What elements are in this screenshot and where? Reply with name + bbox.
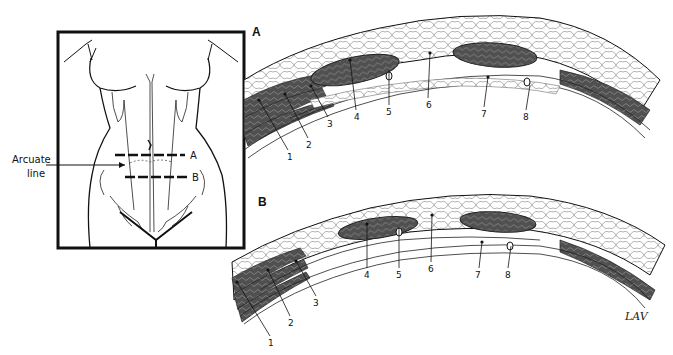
torso-inset: A B xyxy=(46,32,244,248)
cross-section-b: B 1 2 3 4 5 6 7 8 xyxy=(232,195,665,349)
section-b-label: B xyxy=(192,172,199,183)
callout-a-6: 6 xyxy=(426,100,432,110)
callout-a-2: 2 xyxy=(306,140,312,150)
callout-a-4: 4 xyxy=(354,112,360,122)
panel-a-letter: A xyxy=(252,25,261,39)
epigastric-vessel-right-b xyxy=(507,242,513,250)
callout-a-7: 7 xyxy=(481,109,487,119)
callout-a-5: 5 xyxy=(386,107,392,117)
arcuate-line-label-2: line xyxy=(27,168,45,179)
arcuate-line-label-1: Arcuate xyxy=(12,154,51,165)
callout-b-7: 7 xyxy=(475,270,481,280)
callout-b-8: 8 xyxy=(505,270,511,280)
callout-b-3: 3 xyxy=(313,298,319,308)
epigastric-vessel-right-a xyxy=(524,78,530,86)
callout-b-6: 6 xyxy=(428,264,434,274)
callout-a-1: 1 xyxy=(287,152,293,162)
callout-b-5: 5 xyxy=(396,270,402,280)
callout-b-4: 4 xyxy=(364,270,370,280)
abdominal-wall-cross-section-figure: A B Arcuate line A xyxy=(0,0,673,355)
section-a-label: A xyxy=(190,150,197,161)
panel-b-letter: B xyxy=(258,195,267,209)
callout-b-1: 1 xyxy=(268,338,274,348)
illustrator-signature: LAV xyxy=(624,310,649,323)
inset-frame xyxy=(58,32,244,248)
callout-a-8: 8 xyxy=(523,112,529,122)
callout-a-3: 3 xyxy=(327,119,333,129)
callout-b-2: 2 xyxy=(288,318,294,328)
cross-section-a: A xyxy=(244,16,660,162)
